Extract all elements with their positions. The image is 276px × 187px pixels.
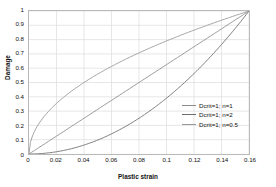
x-tick-label: 0.06 [96,157,126,163]
damage-evolution-chart: 00.10.20.30.40.50.60.70.80.91 00.020.040… [0,0,276,187]
y-tick-label: 0.4 [0,94,24,100]
legend-item-label: Dcrit=1; n=0.5 [199,121,238,128]
y-tick-label: 0.2 [0,123,24,129]
legend-line-swatch [182,114,196,115]
legend: Dcrit=1; n=1Dcrit=1; n=2Dcrit=1; n=0.5 [182,101,238,128]
y-tick-label: 0.8 [0,36,24,42]
y-tick-label: 0.3 [0,108,24,114]
x-tick-label: 0.16 [235,157,265,163]
x-tick-label: 0.12 [180,157,210,163]
x-tick-label: 0.08 [124,157,154,163]
legend-line-swatch [182,124,196,125]
y-tick-label: 0.1 [0,137,24,143]
y-tick-label: 0.9 [0,21,24,27]
legend-item-label: Dcrit=1; n=1 [199,102,233,109]
curve-layer [29,11,249,154]
x-tick-label: 0.04 [69,157,99,163]
y-axis-title: Damage [4,45,11,91]
legend-item[interactable]: Dcrit=1; n=0.5 [182,120,238,128]
plot-area [28,10,250,155]
legend-item-label: Dcrit=1; n=2 [199,111,233,118]
x-tick-label: 0.02 [41,157,71,163]
x-tick-label: 0.14 [207,157,237,163]
legend-item[interactable]: Dcrit=1; n=1 [182,101,238,109]
y-tick-label: 1 [0,7,24,13]
series-line-1 [29,11,249,154]
x-axis-title: Plastic strain [0,173,276,180]
x-tick-label: 0 [13,157,43,163]
legend-line-swatch [182,105,196,106]
x-tick-label: 0.1 [152,157,182,163]
legend-item[interactable]: Dcrit=1; n=2 [182,111,238,119]
